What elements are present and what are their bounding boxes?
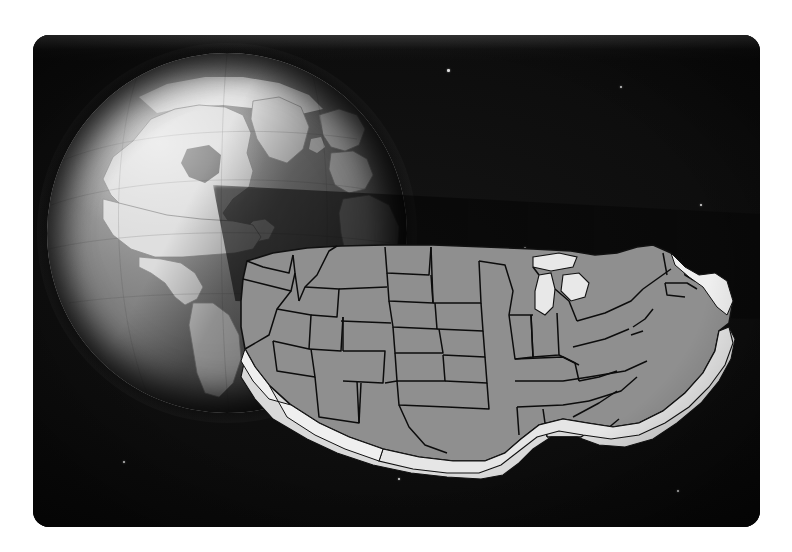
photo-frame xyxy=(33,35,760,527)
star xyxy=(447,69,450,72)
star xyxy=(620,86,622,88)
star xyxy=(677,490,679,492)
united-states-3d-map xyxy=(233,231,753,489)
star xyxy=(700,204,702,206)
image-canvas xyxy=(0,0,792,552)
star xyxy=(123,461,125,463)
lake-michigan xyxy=(535,273,555,315)
